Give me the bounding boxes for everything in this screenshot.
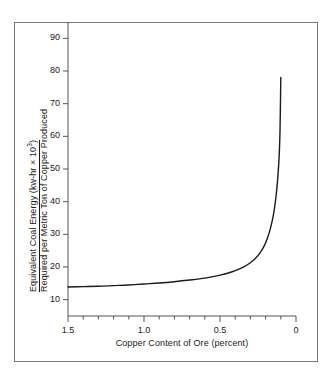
data-curve	[68, 78, 281, 287]
figure-container: 102030405060708090 1.51.00.50 Equivalent…	[0, 0, 332, 378]
x-axis-ticks	[68, 316, 296, 322]
y-axis-title-line-2: Required per Metric Ton of Copper Produc…	[39, 109, 49, 292]
axis-lines	[68, 22, 296, 316]
chart-plot-area	[0, 0, 332, 378]
y-tick-label: 90	[34, 32, 60, 42]
y-axis-title: Equivalent Coal Energy (kw-hr × 103) Req…	[16, 60, 44, 300]
x-tick-label: 0.5	[200, 325, 240, 335]
y-axis-title-text-1: Equivalent Coal Energy (kw-hr × 10	[28, 147, 38, 292]
x-tick-label: 1.0	[124, 325, 164, 335]
y-axis-title-paren: )	[28, 140, 38, 143]
y-axis-ticks	[63, 38, 68, 299]
x-tick-label: 0	[276, 325, 316, 335]
x-tick-label: 1.5	[48, 325, 88, 335]
x-axis-title: Copper Content of Ore (percent)	[68, 338, 296, 348]
y-axis-title-exponent: 3	[26, 143, 33, 147]
